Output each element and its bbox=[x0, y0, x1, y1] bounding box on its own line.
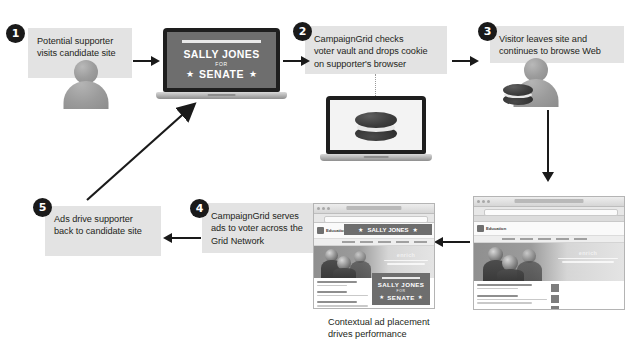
step-label-4-line-3: Grid Network bbox=[211, 235, 311, 247]
step-badge-3: 3 bbox=[478, 22, 497, 41]
ad-for-label: FOR bbox=[397, 289, 406, 293]
poster-candidate-name: SALLY JONES bbox=[183, 48, 259, 60]
site-header: Education bbox=[474, 222, 624, 236]
step-label-4-line-2: ads to voter across the bbox=[211, 222, 311, 234]
arrow-step1-to-laptop-icon bbox=[133, 56, 160, 66]
cookie-icon bbox=[503, 84, 533, 103]
hero-headline: enrich bbox=[558, 250, 618, 263]
arrow-step5-to-laptop-icon bbox=[85, 100, 205, 205]
caption-line-2: drives performance bbox=[328, 328, 430, 340]
ad-candidate-name: SALLY JONES bbox=[378, 281, 425, 288]
site-logo[interactable]: Education bbox=[477, 225, 506, 232]
step-badge-1: 1 bbox=[6, 24, 25, 43]
site-logo-text: Education bbox=[486, 226, 506, 231]
step-badge-4: 4 bbox=[190, 199, 209, 218]
step-label-3-line-1: Visitor leaves site and bbox=[499, 33, 616, 45]
ad-office: SENATE bbox=[387, 294, 415, 301]
poster-office: SENATE bbox=[199, 68, 244, 80]
step-label-2-line-2: voter vault and drops cookie bbox=[314, 45, 439, 57]
browser-titlebar bbox=[314, 204, 434, 214]
hero-headline: enrich bbox=[384, 252, 428, 265]
browser-window-clean[interactable]: Education enrich bbox=[473, 196, 625, 310]
step-label-1-line-1: Potential supporter bbox=[37, 35, 124, 47]
step-label-2-line-3: on supporter's browser bbox=[314, 58, 439, 70]
browser-titlebar bbox=[474, 197, 624, 207]
banner-ad-sally-jones[interactable]: ★ SALLY JONES ★ bbox=[344, 224, 432, 235]
step-label-2-line-1: CampaignGrid checks bbox=[314, 33, 439, 45]
browser-address-bar[interactable] bbox=[314, 214, 434, 223]
site-logo-mark-icon bbox=[477, 225, 484, 232]
arrow-laptop-to-step2-icon bbox=[283, 56, 310, 66]
hero-headline-text: enrich bbox=[558, 250, 618, 256]
star-icon-right: ★ bbox=[418, 294, 423, 300]
star-icon-left: ★ bbox=[186, 69, 194, 79]
step-label-5-line-1: Ads drive supporter bbox=[54, 213, 153, 225]
step-badge-5: 5 bbox=[33, 198, 52, 217]
campaign-poster: SALLY JONES FOR ★ SENATE ★ bbox=[167, 32, 276, 88]
star-icon-left: ★ bbox=[379, 294, 384, 300]
poster-for-label: FOR bbox=[215, 61, 227, 67]
laptop-candidate-site: SALLY JONES FOR ★ SENATE ★ bbox=[163, 28, 280, 100]
person-body-icon bbox=[64, 81, 109, 109]
list-item[interactable] bbox=[551, 295, 621, 303]
site-left-column bbox=[317, 281, 368, 309]
diagram-caption: Contextual ad placement drives performan… bbox=[328, 316, 430, 341]
hero-photo bbox=[474, 243, 552, 281]
site-hero: enrich bbox=[474, 243, 624, 281]
diagram-canvas: 1 Potential supporter visits candidate s… bbox=[0, 0, 628, 352]
site-logo[interactable]: Education bbox=[317, 227, 346, 234]
window-controls-icon[interactable] bbox=[477, 200, 490, 203]
cookie-icon bbox=[355, 112, 397, 138]
browser-address-bar[interactable] bbox=[474, 207, 624, 216]
hero-headline-text: enrich bbox=[384, 252, 428, 258]
star-icon-left: ★ bbox=[358, 226, 363, 233]
star-icon-right: ★ bbox=[413, 226, 418, 233]
person-icon bbox=[62, 60, 110, 108]
browser-window-with-ads[interactable]: Education ★ SALLY JONES ★ bbox=[313, 203, 435, 309]
site-right-column bbox=[551, 284, 621, 310]
step-badge-2: 2 bbox=[293, 22, 312, 41]
site-content-columns bbox=[474, 281, 624, 310]
site-page: Education ★ SALLY JONES ★ bbox=[314, 223, 434, 309]
step-label-1-line-2: visits candidate site bbox=[37, 47, 124, 59]
banner-ad-text: SALLY JONES bbox=[367, 227, 408, 233]
arrow-step4-to-step5-icon bbox=[163, 233, 201, 243]
step-label-3-line-2: continues to browse Web bbox=[499, 45, 616, 57]
caption-line-1: Contextual ad placement bbox=[328, 316, 430, 328]
arrow-browser-to-adbrowser-icon bbox=[434, 237, 470, 247]
list-item[interactable] bbox=[551, 306, 621, 310]
window-controls-icon[interactable] bbox=[317, 207, 330, 210]
step-label-4: CampaignGrid serves ads to voter across … bbox=[202, 203, 319, 253]
retargeted-ad-sally-jones[interactable]: SALLY JONES FOR ★ SENATE ★ bbox=[372, 273, 430, 305]
site-navbar[interactable] bbox=[474, 236, 624, 243]
step-label-5: Ads drive supporter back to candidate si… bbox=[45, 206, 161, 256]
arrow-step2-to-step3-icon bbox=[452, 56, 479, 66]
site-logo-mark-icon bbox=[317, 227, 324, 234]
arrow-step3-to-browser-icon bbox=[542, 110, 554, 182]
list-item[interactable] bbox=[551, 284, 621, 292]
hero-photo bbox=[314, 246, 376, 278]
step-label-5-line-2: back to candidate site bbox=[54, 225, 153, 237]
laptop-cookie-drop bbox=[326, 96, 426, 162]
site-page: Education enrich bbox=[474, 222, 624, 310]
site-header: Education ★ SALLY JONES ★ bbox=[314, 223, 434, 239]
step-label-2: CampaignGrid checks voter vault and drop… bbox=[305, 26, 447, 74]
site-left-column bbox=[477, 284, 547, 310]
site-navbar[interactable] bbox=[314, 239, 434, 246]
step-label-4-line-1: CampaignGrid serves bbox=[211, 210, 311, 222]
star-icon-right: ★ bbox=[249, 69, 257, 79]
